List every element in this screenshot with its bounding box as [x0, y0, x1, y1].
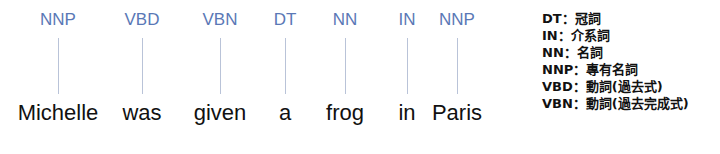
legend-item-vbn: VBN：動詞(過去完成式)	[542, 95, 689, 112]
token-word: Paris	[407, 100, 507, 126]
connector-line	[220, 38, 221, 94]
legend-item-nnp: NNP：專有名詞	[542, 61, 689, 78]
pos-legend: DT：冠詞 IN：介系詞 NN：名詞 NNP：專有名詞 VBD：動詞(過去式) …	[542, 10, 689, 112]
connector-line	[345, 38, 346, 94]
connector-line	[285, 38, 286, 94]
connector-line	[58, 38, 59, 94]
connector-line	[457, 38, 458, 94]
legend-item-in: IN：介系詞	[542, 27, 689, 44]
legend-item-nn: NN：名詞	[542, 44, 689, 61]
connector-line	[142, 38, 143, 94]
pos-tag: NNP	[407, 10, 507, 30]
connector-line	[407, 38, 408, 94]
legend-item-dt: DT：冠詞	[542, 10, 689, 27]
legend-item-vbd: VBD：動詞(過去式)	[542, 78, 689, 95]
